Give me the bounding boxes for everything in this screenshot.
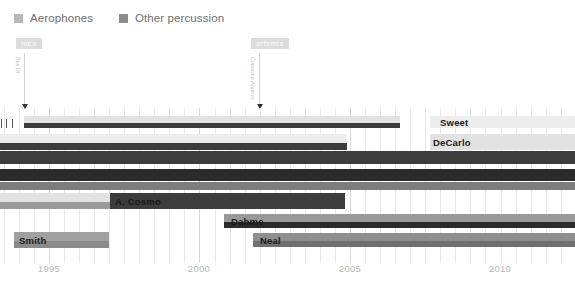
legend-swatch-icon bbox=[119, 14, 128, 23]
legend-label: Aerophones bbox=[30, 12, 93, 24]
x-axis: 1995200020052010 bbox=[0, 263, 575, 282]
bar-label-sweet-row: Sweet bbox=[437, 117, 471, 128]
legend-swatch-icon bbox=[14, 14, 23, 23]
timeline-row-row-5[interactable] bbox=[0, 182, 575, 190]
axis-tick-label: 1995 bbox=[38, 263, 60, 274]
bar-segment[interactable] bbox=[0, 202, 110, 209]
timeline-row-acosmo-row[interactable] bbox=[0, 193, 575, 209]
timeline-chart-root: AerophonesOther percussion mcoBks Drarte… bbox=[0, 0, 575, 282]
event-pill-artemis[interactable]: artemis bbox=[251, 38, 289, 49]
timeline-row-row-3[interactable] bbox=[0, 151, 575, 164]
legend: AerophonesOther percussion bbox=[14, 12, 224, 24]
bar-segment[interactable] bbox=[0, 143, 347, 150]
bar-segment[interactable] bbox=[0, 134, 347, 143]
bar-segment[interactable] bbox=[224, 222, 575, 228]
timeline-row-row-4[interactable] bbox=[0, 169, 575, 181]
legend-label: Other percussion bbox=[135, 12, 224, 24]
bar-segment[interactable] bbox=[0, 182, 575, 190]
event-stem-line bbox=[24, 53, 25, 105]
bar-segment[interactable] bbox=[0, 151, 575, 164]
bar-segment[interactable] bbox=[0, 193, 110, 202]
axis-tick-label: 2000 bbox=[188, 263, 210, 274]
event-vertical-label: Bks Dr bbox=[15, 57, 21, 74]
axis-tick-label: 2005 bbox=[339, 263, 361, 274]
legend-item[interactable]: Aerophones bbox=[14, 12, 93, 24]
event-vertical-label: Coporate Amercy bbox=[250, 57, 256, 100]
bar-label-dahme-row: Dahme bbox=[228, 216, 267, 227]
bar-label-acosmo-row: A. Cosmo bbox=[112, 196, 164, 207]
timeline-row-smith-row[interactable] bbox=[0, 232, 575, 248]
timeline-row-sweet-row[interactable] bbox=[0, 116, 575, 128]
legend-item[interactable]: Other percussion bbox=[119, 12, 224, 24]
event-pill-mco[interactable]: mco bbox=[16, 38, 42, 49]
timeline-row-dahme-row[interactable] bbox=[0, 214, 575, 228]
event-stem-line bbox=[259, 53, 260, 105]
bar-segment[interactable] bbox=[24, 123, 400, 128]
axis-tick-label: 2010 bbox=[489, 263, 511, 274]
bar-segment[interactable] bbox=[24, 116, 400, 123]
plot-area: SweetDeCarloA. CosmoDahmeNealSmith bbox=[0, 108, 575, 263]
bar-segment[interactable] bbox=[224, 214, 575, 222]
bar-label-smith-row: Smith bbox=[16, 235, 49, 246]
bar-label-decarlo-row: DeCarlo bbox=[430, 137, 474, 148]
timeline-row-decarlo-row[interactable] bbox=[0, 134, 575, 150]
bar-segment[interactable] bbox=[0, 169, 575, 181]
